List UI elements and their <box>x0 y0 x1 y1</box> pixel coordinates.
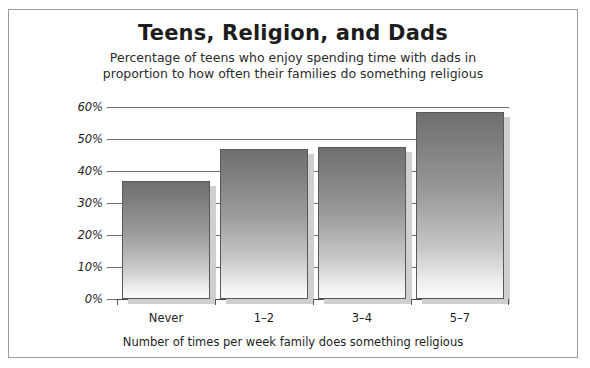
bar[interactable] <box>318 147 406 299</box>
y-axis-tick <box>107 203 117 204</box>
y-axis-tick-label: 20% <box>77 228 103 242</box>
x-axis-category-label: Never <box>149 311 183 325</box>
chart-subtitle-line-1: Percentage of teens who enjoy spending t… <box>78 50 508 66</box>
x-axis-tick <box>215 299 216 305</box>
chart-subtitle: Percentage of teens who enjoy spending t… <box>78 50 508 82</box>
x-axis-title: Number of times per week family does som… <box>9 335 577 349</box>
bar-group <box>122 107 210 299</box>
x-axis-category-label: 5–7 <box>450 311 470 325</box>
y-axis-tick-label: 40% <box>77 164 103 178</box>
y-axis-tick <box>107 107 117 108</box>
x-axis-tick <box>411 299 412 305</box>
y-axis-tick <box>107 299 117 300</box>
y-axis-tick <box>107 235 117 236</box>
bars-layer <box>117 107 509 299</box>
y-axis-tick <box>107 171 117 172</box>
x-axis-category-label: 1–2 <box>254 311 274 325</box>
y-axis-tick-label: 30% <box>77 196 103 210</box>
y-axis-tick-label: 10% <box>77 260 103 274</box>
y-axis-tick <box>107 139 117 140</box>
bar[interactable] <box>416 112 504 299</box>
x-axis-category-label: 3–4 <box>352 311 372 325</box>
y-axis-tick-label: 0% <box>85 292 103 306</box>
bar[interactable] <box>122 181 210 299</box>
x-axis-tick <box>117 299 118 305</box>
y-axis-tick-label: 50% <box>77 132 103 146</box>
bar-group <box>318 107 406 299</box>
y-axis-tick <box>107 267 117 268</box>
plot-area: 60%50%40%30%20%10%0% Never1–23–45–7 <box>117 107 509 299</box>
bar[interactable] <box>220 149 308 299</box>
x-axis-tick <box>313 299 314 305</box>
chart-frame: Teens, Religion, and Dads Percentage of … <box>8 9 578 358</box>
bar-group <box>416 107 504 299</box>
bar-group <box>220 107 308 299</box>
chart-title: Teens, Religion, and Dads <box>9 21 577 45</box>
x-axis-tick <box>508 299 509 305</box>
chart-subtitle-line-2: proportion to how often their families d… <box>78 66 508 82</box>
y-axis-tick-label: 60% <box>77 100 103 114</box>
